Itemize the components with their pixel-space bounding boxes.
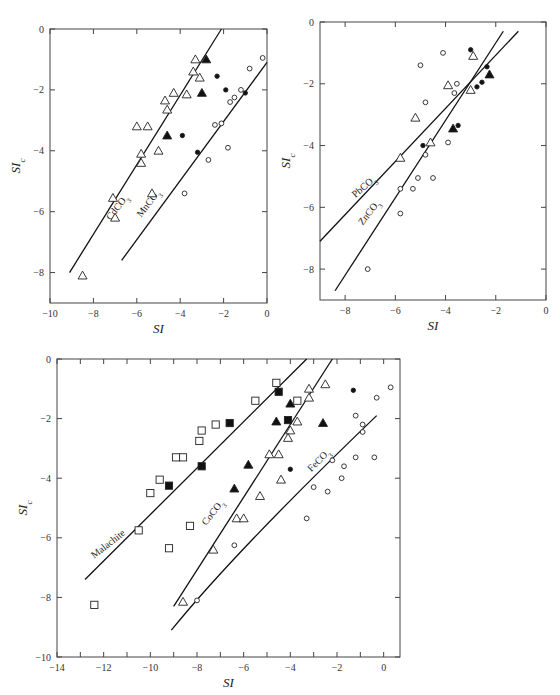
- open-triangle-marker: [239, 514, 248, 522]
- y-tick-label: −6: [303, 202, 314, 213]
- filled-triangle-marker: [163, 131, 172, 139]
- open-circle-marker: [423, 152, 428, 157]
- open-square-marker: [273, 379, 280, 386]
- open-triangle-marker: [143, 122, 152, 130]
- fit-line-malachite: [85, 359, 307, 580]
- y-tick-label: −8: [33, 267, 44, 278]
- x-tick-label: 0: [381, 662, 386, 673]
- filled-square-marker: [284, 416, 291, 423]
- figure-canvas: −10−8−6−4−200−2−4−6−8SISIcCdCO3MnCO3−8−6…: [0, 0, 560, 695]
- chart-top-right: −8−6−4−200−2−4−6−8SISIcPbCO3ZnCO3: [278, 17, 549, 334]
- open-circle-marker: [228, 100, 233, 105]
- open-triangle-marker: [277, 475, 286, 483]
- line-label: ZnCO3: [356, 197, 386, 229]
- fit-line-znco3: [335, 31, 503, 290]
- x-tick-label: −4: [175, 308, 186, 319]
- open-circle-marker: [360, 430, 365, 435]
- y-tick-label: −6: [40, 532, 51, 543]
- x-axis-title: SI: [223, 675, 235, 690]
- x-tick-label: −14: [49, 662, 65, 673]
- open-circle-marker: [339, 476, 344, 481]
- open-square-marker: [135, 527, 142, 534]
- filled-circle-marker: [180, 133, 184, 137]
- open-circle-marker: [330, 458, 335, 463]
- y-tick-label: 0: [39, 24, 44, 35]
- x-tick-label: −12: [96, 662, 112, 673]
- open-circle-marker: [182, 191, 187, 196]
- filled-triangle-marker: [319, 419, 328, 427]
- open-square-marker: [212, 421, 219, 428]
- open-triangle-marker: [444, 81, 453, 89]
- open-circle-marker: [219, 121, 224, 126]
- x-tick-label: 0: [544, 305, 549, 316]
- filled-circle-marker: [485, 65, 489, 69]
- open-circle-marker: [418, 63, 423, 68]
- open-square-marker: [156, 476, 163, 483]
- open-triangle-marker: [265, 450, 274, 458]
- open-triangle-marker: [396, 153, 405, 161]
- series-filled-circle: [180, 74, 247, 155]
- filled-triangle-marker: [272, 417, 281, 425]
- open-circle-marker: [423, 100, 428, 105]
- x-axis-title: SI: [428, 318, 440, 333]
- open-triangle-marker: [411, 113, 420, 121]
- plot-frame: [57, 359, 400, 657]
- filled-circle-marker: [480, 80, 484, 84]
- x-tick-label: −2: [332, 662, 343, 673]
- filled-triangle-marker: [197, 88, 206, 96]
- open-triangle-marker: [305, 393, 314, 401]
- open-square-marker: [186, 522, 193, 529]
- series-open-circle: [182, 56, 265, 196]
- open-circle-marker: [454, 81, 459, 86]
- open-triangle-marker: [179, 597, 188, 605]
- open-triangle-marker: [154, 146, 163, 154]
- x-tick-label: −2: [218, 308, 229, 319]
- open-circle-marker: [441, 50, 446, 55]
- open-triangle-marker: [132, 122, 141, 130]
- x-tick-label: −8: [88, 308, 99, 319]
- filled-square-marker: [226, 419, 233, 426]
- open-triangle-marker: [182, 90, 191, 98]
- y-tick-label: −10: [35, 652, 51, 663]
- x-tick-label: −8: [340, 305, 351, 316]
- y-tick-label: −2: [303, 78, 314, 89]
- filled-square-marker: [275, 388, 282, 395]
- open-circle-marker: [206, 158, 211, 163]
- filled-circle-marker: [215, 74, 219, 78]
- y-tick-label: −4: [303, 140, 314, 151]
- open-square-marker: [165, 545, 172, 552]
- plot-frame: [320, 22, 546, 300]
- open-circle-marker: [452, 91, 457, 96]
- open-circle-marker: [416, 176, 421, 181]
- filled-circle-marker: [475, 85, 479, 89]
- open-circle-marker: [239, 87, 244, 92]
- open-circle-marker: [232, 95, 237, 100]
- series-filled-square: [165, 388, 291, 489]
- line-label: PbCO3: [349, 173, 380, 203]
- filled-circle-marker: [195, 150, 199, 154]
- open-circle-marker: [232, 543, 237, 548]
- open-circle-marker: [431, 176, 436, 181]
- series-open-circle: [365, 50, 459, 271]
- y-tick-label: 0: [309, 17, 314, 28]
- open-square-marker: [91, 601, 98, 608]
- x-tick-label: −6: [390, 305, 401, 316]
- open-circle-marker: [325, 489, 330, 494]
- plot-frame: [50, 29, 267, 303]
- open-triangle-marker: [284, 433, 293, 441]
- open-circle-marker: [388, 385, 393, 390]
- x-tick-label: −4: [440, 305, 451, 316]
- filled-square-marker: [198, 463, 205, 470]
- open-circle-marker: [213, 123, 218, 128]
- open-square-marker: [179, 454, 186, 461]
- y-axis-title: SIc: [8, 159, 27, 174]
- open-square-marker: [147, 490, 154, 497]
- y-tick-label: −8: [303, 264, 314, 275]
- filled-circle-marker: [351, 388, 355, 392]
- open-triangle-marker: [169, 88, 178, 96]
- open-circle-marker: [195, 598, 200, 603]
- y-axis-title: SIc: [15, 501, 34, 516]
- open-triangle-marker: [274, 450, 283, 458]
- x-tick-label: 0: [265, 308, 270, 319]
- series-open-triangle: [396, 51, 478, 161]
